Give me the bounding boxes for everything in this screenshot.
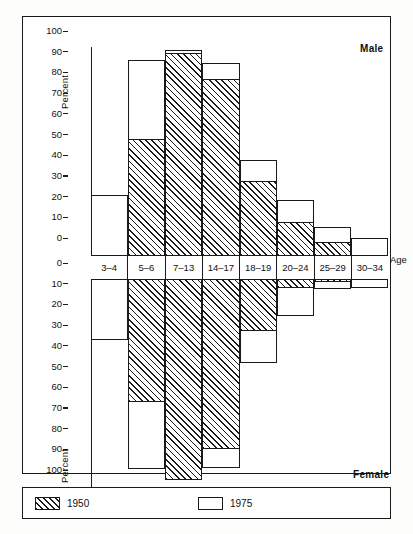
figure-root: Percent Percent Male Female Age 10090807… [0, 0, 413, 534]
age-cell-4[interactable]: 18–19 [240, 256, 277, 279]
bar-male-1950-1[interactable] [128, 139, 165, 255]
age-cell-label: 30–34 [357, 262, 383, 273]
age-cell-0[interactable]: 3–4 [91, 256, 128, 279]
y-tick-60: 60 [51, 109, 68, 119]
y-tick-60: 60 [51, 382, 68, 392]
bar-female-1950-6[interactable] [314, 279, 351, 282]
age-cell-7[interactable]: 30–34 [352, 256, 388, 279]
bar-male-1950-4[interactable] [240, 181, 277, 256]
bar-male-1950-3[interactable] [202, 79, 239, 256]
legend-label-1975: 1975 [230, 498, 252, 509]
legend-frame: 1950 1975 [22, 487, 391, 519]
x-axis-title: Age [390, 254, 407, 265]
y-tick-10: 10 [51, 212, 68, 222]
age-cell-5[interactable]: 20–24 [277, 256, 314, 279]
y-tick-50: 50 [51, 130, 68, 140]
bar-female-1950-5[interactable] [277, 279, 314, 288]
y-tick-100: 100 [46, 26, 68, 36]
y-tick-20: 20 [51, 299, 68, 309]
y-tick-0: 0 [57, 233, 68, 243]
y-tick-20: 20 [51, 192, 68, 202]
y-tick-40: 40 [51, 341, 68, 351]
y-tick-70: 70 [51, 88, 68, 98]
age-cell-label: 20–24 [282, 262, 308, 273]
age-cell-6[interactable]: 25–29 [315, 256, 352, 279]
age-cell-label: 5–6 [138, 262, 154, 273]
age-cell-label: 25–29 [319, 262, 345, 273]
age-cell-label: 7–13 [173, 262, 194, 273]
y-tick-30: 30 [51, 171, 68, 181]
age-cell-label: 14–17 [208, 262, 234, 273]
chart-plot-area: 3–45–67–1314–1718–1920–2425–2930–34 [91, 47, 388, 487]
bar-female-1975-7[interactable] [351, 279, 388, 288]
plot-frame: Percent Percent Male Female Age 10090807… [22, 16, 391, 474]
y-tick-10: 10 [51, 279, 68, 289]
y-tick-70: 70 [51, 403, 68, 413]
legend-swatch-hatched-icon [35, 497, 60, 510]
y-tick-90: 90 [51, 444, 68, 454]
y-tick-0: 0 [57, 258, 68, 268]
y-tick-80: 80 [51, 67, 68, 77]
bar-female-1950-2[interactable] [165, 279, 202, 480]
age-cell-3[interactable]: 14–17 [203, 256, 240, 279]
age-cell-2[interactable]: 7–13 [166, 256, 203, 279]
y-tick-30: 30 [51, 320, 68, 330]
legend-item-1975[interactable]: 1975 [198, 497, 252, 510]
legend-swatch-outline-icon [198, 497, 223, 510]
bar-female-1950-4[interactable] [240, 279, 277, 331]
y-tick-80: 80 [51, 424, 68, 434]
age-cell-label: 3–4 [101, 262, 117, 273]
age-cell-1[interactable]: 5–6 [128, 256, 165, 279]
bar-male-1950-5[interactable] [277, 222, 314, 256]
bar-male-1950-6[interactable] [314, 242, 351, 256]
age-cell-label: 18–19 [245, 262, 271, 273]
bar-female-1950-3[interactable] [202, 279, 239, 449]
bar-male-1975-7[interactable] [351, 238, 388, 255]
bar-male-1975-0[interactable] [91, 195, 128, 256]
age-category-band: 3–45–67–1314–1718–1920–2425–2930–34 [91, 256, 388, 279]
y-tick-100: 100 [46, 465, 68, 475]
legend-item-1950[interactable]: 1950 [35, 497, 89, 510]
y-tick-50: 50 [51, 362, 68, 372]
legend-label-1950: 1950 [67, 498, 89, 509]
bar-male-1950-2[interactable] [165, 53, 202, 255]
y-tick-90: 90 [51, 47, 68, 57]
bar-female-1975-0[interactable] [91, 279, 128, 340]
bar-female-1950-1[interactable] [128, 279, 165, 402]
y-tick-40: 40 [51, 150, 68, 160]
